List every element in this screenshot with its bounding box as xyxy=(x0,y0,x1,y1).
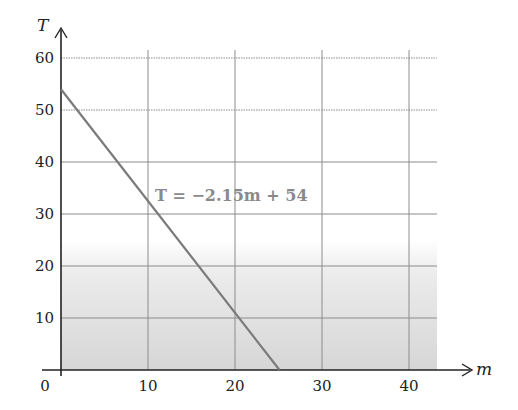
x-tick-label: 30 xyxy=(312,377,331,395)
y-tick-label: 10 xyxy=(35,309,54,327)
y-tick-label: 50 xyxy=(35,101,54,119)
x-tick-label: 20 xyxy=(225,377,244,395)
shaded-region xyxy=(61,240,437,370)
y-tick-label: 40 xyxy=(35,153,54,171)
y-tick-label: 30 xyxy=(35,205,54,223)
y-tick-label: 20 xyxy=(35,257,54,275)
origin-label: 0 xyxy=(40,377,50,395)
chart-canvas: 10203040506010203040 T m 0 T = −2.15m + … xyxy=(0,0,518,410)
y-tick-label: 60 xyxy=(35,49,54,67)
equation-label: T = −2.15m + 54 xyxy=(155,186,308,205)
x-tick-label: 10 xyxy=(138,377,157,395)
y-axis-label: T xyxy=(37,15,50,35)
x-tick-label: 40 xyxy=(399,377,418,395)
x-axis-label: m xyxy=(476,359,492,379)
